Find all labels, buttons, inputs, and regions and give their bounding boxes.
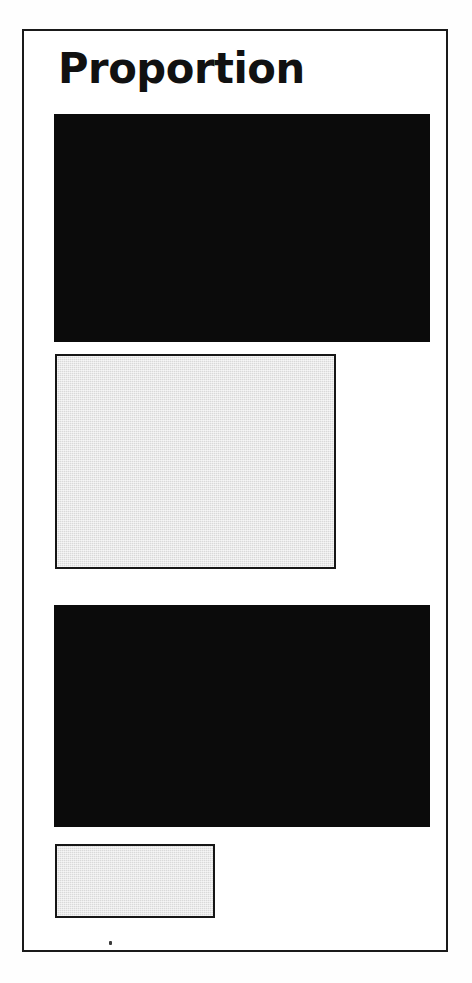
page-title: Proportion [58,46,305,91]
bar-small-tint-lower [55,844,215,918]
bar-medium-tint-upper [55,354,336,569]
bar-large-solid-top [54,114,430,342]
scan-speck-artifact [109,941,112,945]
bar-large-solid-bottom [54,605,430,827]
page-canvas: Proportion [0,0,472,983]
slide-border: Proportion [22,29,448,952]
